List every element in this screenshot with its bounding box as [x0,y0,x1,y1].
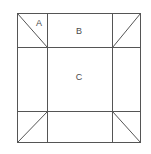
diagram-canvas: A B C [0,0,151,154]
region-label-b: B [76,26,82,36]
region-label-c: C [76,72,83,82]
region-label-a: A [36,18,42,28]
square-grid-diagram: A B C [0,0,151,154]
